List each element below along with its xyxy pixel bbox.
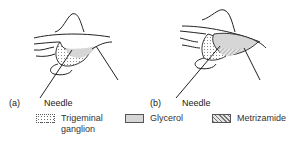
anatomy-diagram-a <box>0 0 152 110</box>
needle-label-a: Needle <box>44 98 73 108</box>
panel-b: (b) Needle <box>140 0 304 110</box>
panel-label-b: (b) <box>150 98 161 108</box>
legend-item-trigeminal-ganglion: Trigeminal ganglion <box>36 113 103 135</box>
legend: Trigeminal ganglion Glycerol Metrizamide <box>0 113 304 148</box>
glycerol-swatch-icon <box>125 114 144 123</box>
legend-label-trigeminal-line1: Trigeminal <box>61 113 103 124</box>
metrizamide-swatch-icon <box>212 114 231 123</box>
legend-label-metrizamide: Metrizamide <box>237 113 286 124</box>
panel-a: (a) Needle <box>0 0 152 110</box>
legend-label-glycerol: Glycerol <box>150 113 183 124</box>
dotted-swatch-icon <box>36 114 55 123</box>
legend-item-glycerol: Glycerol <box>125 113 183 124</box>
panel-label-a: (a) <box>9 98 20 108</box>
legend-item-metrizamide: Metrizamide <box>212 113 286 124</box>
legend-label-trigeminal-line2: ganglion <box>61 124 103 135</box>
needle-label-b: Needle <box>182 98 211 108</box>
anatomy-diagram-b <box>140 0 304 110</box>
